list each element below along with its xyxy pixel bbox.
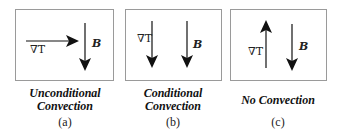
panel-a-caption-line2: Convection [5, 100, 125, 113]
panel-b-gradT-label: ∇T [137, 32, 153, 45]
panel-c-gradT-label: ∇T [248, 45, 264, 58]
panel-c-B-label: B [298, 40, 308, 53]
panel-b-caption: Conditional Convection [113, 87, 233, 113]
panel-c-caption-line1: No Convection [218, 94, 338, 107]
panel-a-B-arrow [79, 23, 91, 71]
panel-b-caption-line2: Convection [113, 100, 233, 113]
panel-a-sublabel: (a) [5, 115, 125, 130]
panel-b-sublabel: (b) [113, 115, 233, 130]
panel-b-B-arrow [181, 21, 193, 68]
panel-b-B-label: B [192, 38, 202, 51]
panel-a-gradT-label: ∇T [30, 43, 46, 56]
panel-a-B-label: B [91, 37, 101, 50]
panel-c-B-arrow [286, 24, 298, 71]
panel-a-caption: Unconditional Convection [5, 87, 125, 113]
panel-c-sublabel: (c) [218, 115, 338, 130]
panel-c-gradT-arrow [260, 20, 272, 68]
panel-c-caption: No Convection [218, 94, 338, 107]
